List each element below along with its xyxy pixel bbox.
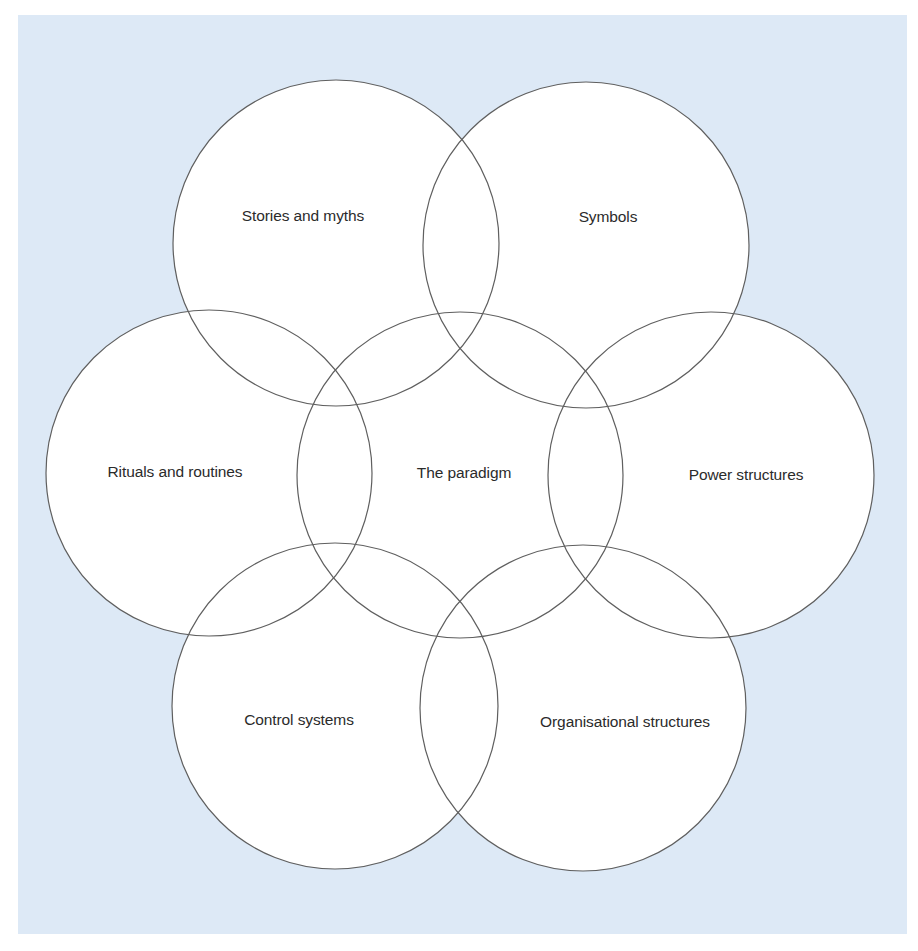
diagram-canvas: Stories and mythsSymbolsRituals and rout… [0, 0, 918, 951]
label-control: Control systems [244, 711, 354, 729]
label-symbols: Symbols [579, 208, 638, 226]
label-organisational: Organisational structures [540, 713, 710, 731]
circle-fill-organisational [420, 545, 746, 871]
label-stories: Stories and myths [242, 207, 364, 225]
label-paradigm: The paradigm [417, 464, 511, 482]
label-rituals: Rituals and routines [108, 463, 243, 481]
label-power: Power structures [689, 466, 804, 484]
